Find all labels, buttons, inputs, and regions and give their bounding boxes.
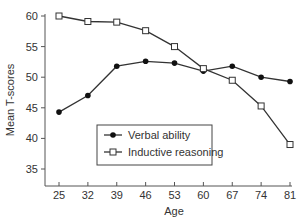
data-point-verbal [229, 63, 235, 69]
y-tick-label: 55 [26, 41, 38, 53]
y-ticks: 354045505560 [26, 10, 45, 175]
y-tick-label: 40 [26, 132, 38, 144]
data-point-inductive [172, 44, 178, 50]
data-point-inductive [56, 13, 62, 19]
data-point-verbal [258, 74, 264, 80]
y-tick-label: 35 [26, 163, 38, 175]
x-tick-label: 32 [82, 189, 94, 201]
y-axis-label: Mean T-scores [4, 63, 16, 136]
x-tick-label: 74 [255, 189, 267, 201]
data-point-inductive [114, 19, 120, 25]
data-point-verbal [114, 63, 120, 69]
x-ticks: 253239465360677481 [53, 182, 296, 201]
legend-label-verbal: Verbal ability [128, 129, 191, 141]
legend: Verbal ability Inductive reasoning [97, 125, 223, 165]
data-point-inductive [229, 77, 235, 83]
data-point-verbal [85, 93, 91, 99]
y-tick-label: 60 [26, 10, 38, 22]
data-point-verbal [56, 109, 62, 115]
data-point-inductive [85, 19, 91, 25]
x-tick-label: 25 [53, 189, 65, 201]
legend-marker-verbal [110, 132, 116, 138]
x-tick-label: 81 [284, 189, 296, 201]
data-point-inductive [287, 142, 293, 148]
series-line-verbal [59, 61, 290, 112]
x-tick-label: 46 [140, 189, 152, 201]
x-axis-label: Age [164, 205, 184, 217]
legend-marker-inductive [110, 149, 116, 155]
data-point-inductive [143, 28, 149, 34]
y-tick-label: 50 [26, 71, 38, 83]
y-tick-label: 45 [26, 102, 38, 114]
data-point-verbal [287, 79, 293, 85]
x-tick-label: 39 [111, 189, 123, 201]
line-chart: 354045505560 253239465360677481 Mean T-s… [0, 0, 304, 224]
data-point-verbal [172, 60, 178, 66]
x-tick-label: 67 [226, 189, 238, 201]
data-point-inductive [200, 66, 206, 72]
x-tick-label: 60 [197, 189, 209, 201]
legend-label-inductive: Inductive reasoning [128, 146, 223, 158]
x-tick-label: 53 [168, 189, 180, 201]
data-point-verbal [143, 58, 149, 64]
data-point-inductive [258, 103, 264, 109]
